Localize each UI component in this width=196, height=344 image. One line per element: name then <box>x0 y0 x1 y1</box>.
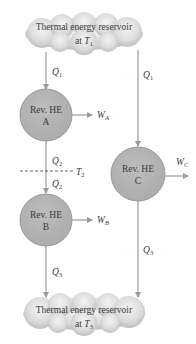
q3-right-label: Q3 <box>143 245 153 256</box>
wc-label: WC <box>176 157 189 168</box>
t2-label: T2 <box>76 167 85 178</box>
wa-label: WA <box>97 110 109 121</box>
top-reservoir: Thermal energy reservoir at T1 <box>25 12 143 55</box>
engine-a-id: A <box>43 117 50 127</box>
engine-a-label: Rev. HE <box>30 105 62 115</box>
q1-right-label: Q1 <box>143 70 153 81</box>
wb-label: WB <box>97 215 109 226</box>
engine-b-id: B <box>43 222 49 232</box>
engine-b: Rev. HE B <box>20 194 72 246</box>
top-reservoir-label: Thermal energy reservoir <box>36 22 133 32</box>
bottom-reservoir-label: Thermal energy reservoir <box>36 305 133 315</box>
engine-c: Rev. HE C <box>111 147 165 201</box>
engine-c-label: Rev. HE <box>122 164 154 174</box>
engine-c-id: C <box>135 176 141 186</box>
bottom-reservoir: Thermal energy reservoir at T3 <box>23 292 145 336</box>
q1-left-label: Q1 <box>52 67 62 78</box>
engine-b-label: Rev. HE <box>30 210 62 220</box>
cloud-shape-top <box>25 12 143 55</box>
q2-lower-label: Q2 <box>52 179 62 190</box>
engine-a: Rev. HE A <box>20 89 72 141</box>
q3-left-label: Q3 <box>52 267 62 278</box>
cascade-heat-engine-diagram: Thermal energy reservoir at T1 T2 Rev. H… <box>0 0 196 344</box>
q2-upper-label: Q2 <box>52 156 62 167</box>
